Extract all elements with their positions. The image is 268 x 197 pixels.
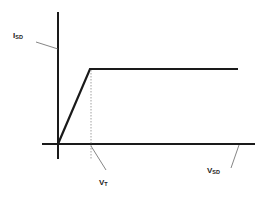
y-axis-label: ISD [13,31,23,40]
threshold-label: VT [99,178,108,187]
vt-leader-line [91,146,106,170]
characteristic-curve [58,69,238,144]
threshold-label-sub: T [104,181,107,187]
isd-leader-line [36,42,58,49]
x-axis-label: VSD [207,166,220,175]
vsd-leader-line [231,145,239,168]
y-axis-label-sub: SD [15,34,23,40]
x-axis-label-sub: SD [212,169,220,175]
iv-diagram [0,0,268,197]
